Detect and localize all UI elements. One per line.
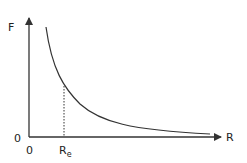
y-axis-label: F bbox=[8, 22, 14, 33]
re-label-sub: e bbox=[67, 150, 72, 159]
diagram-canvas bbox=[0, 0, 247, 163]
x-origin-label: 0 bbox=[26, 145, 33, 156]
y-origin-label: 0 bbox=[14, 133, 21, 144]
re-label: Re bbox=[59, 145, 72, 159]
x-axis-label: R bbox=[226, 132, 234, 143]
re-label-main: R bbox=[59, 144, 67, 157]
force-curve bbox=[46, 27, 210, 134]
